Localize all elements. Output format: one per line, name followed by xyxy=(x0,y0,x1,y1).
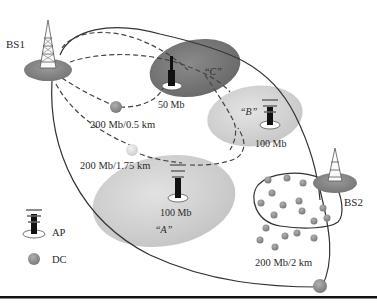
zone-a-label: “A” xyxy=(155,224,173,235)
link-2-label: 200 Mb/1.75 km xyxy=(80,160,150,171)
bs2-label: BS2 xyxy=(344,196,363,208)
zone-a-capacity: 100 Mb xyxy=(160,207,191,218)
link-1-label: 200 Mb/0.5 km xyxy=(90,119,155,130)
bottom-rule xyxy=(0,296,377,299)
data-collector-2 xyxy=(126,144,138,156)
zone-c-capacity: 50 Mb xyxy=(158,99,184,110)
legend-ap-label: AP xyxy=(52,227,66,238)
legend-dc-label: DC xyxy=(52,254,67,265)
bs1-label: BS1 xyxy=(6,38,25,50)
data-collector-icon xyxy=(28,253,40,265)
data-collector-3 xyxy=(313,279,327,293)
link-3-label: 200 Mb/2 km xyxy=(255,257,312,268)
legend: AP DC xyxy=(23,210,67,265)
base-station-bs2 xyxy=(313,148,357,193)
base-station-bs1 xyxy=(24,20,72,81)
zone-b-capacity: 100 Mb xyxy=(255,138,286,149)
network-diagram: BS1 BS2 50 Mb “C” 100 Mb “B” 100 Mb “A” xyxy=(0,0,377,305)
data-collector-1 xyxy=(110,101,122,113)
access-point-icon xyxy=(23,210,45,238)
zone-b-label: “B” xyxy=(240,106,258,117)
zone-c-label: “C” xyxy=(204,66,222,77)
